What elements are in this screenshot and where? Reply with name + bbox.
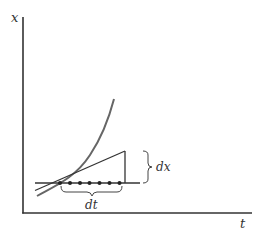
x-axis-label: t [240,216,246,231]
dt-label: dt [85,198,98,212]
y-axis-label: x [11,10,19,25]
dx-brace [143,151,152,183]
dx-label: dx [156,160,171,174]
derivative-diagram: x t dt dx [0,0,260,232]
dt-brace [61,186,122,196]
function-curve [37,99,114,196]
